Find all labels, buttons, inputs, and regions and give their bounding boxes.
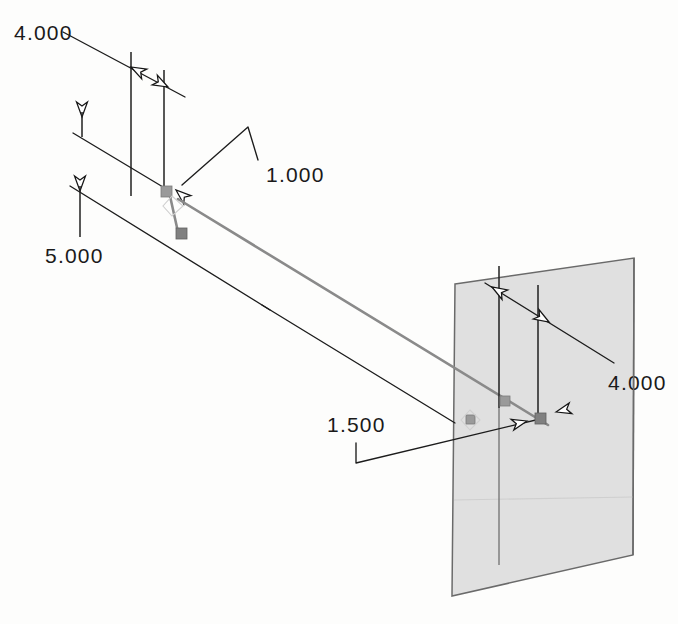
drawing-canvas: 4.000 1.000 5.000 1.500 4.000 (0, 0, 678, 624)
node-plane-point-b (535, 413, 546, 424)
isometric-sketch: 4.000 1.000 5.000 1.500 4.000 (0, 0, 678, 624)
dimension-label-4000-right: 4.000 (608, 371, 667, 394)
leader-line-1000 (182, 127, 258, 185)
dimension-label-1000: 1.000 (266, 163, 325, 186)
node-plane-point-a (500, 396, 510, 406)
dimension-label-5000: 5.000 (45, 244, 104, 267)
reference-plane (452, 258, 634, 596)
upper-sloped-line (73, 133, 168, 190)
node-plane-point-c (466, 415, 475, 424)
arrowhead-4000-top-right (152, 75, 170, 92)
node-upper-point (161, 186, 172, 197)
dimension-label-1500: 1.500 (327, 413, 386, 436)
node-lower-point (176, 228, 187, 239)
plane-right-edge-overlay (633, 258, 634, 555)
dimension-label-4000-top: 4.000 (14, 21, 73, 44)
lower-sloped-line (262, 305, 455, 423)
